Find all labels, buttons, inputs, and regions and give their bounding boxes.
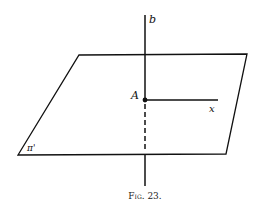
figure-caption: Fig. 23. [0,191,255,201]
label-pi: π' [27,144,35,153]
point-a [143,98,148,103]
label-a: A [131,90,139,101]
figure-diagram [0,0,255,213]
label-b: b [149,14,156,25]
label-x: x [209,104,215,114]
